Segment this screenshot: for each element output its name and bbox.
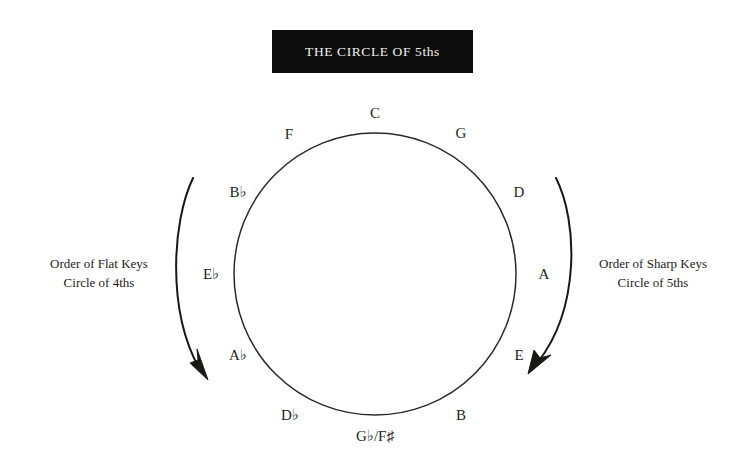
note-g: G [456,126,467,141]
note-gb-fs: G♭/F♯ [356,429,394,444]
note-a: A [539,267,550,282]
flat-keys-caption-line2: Circle of 4ths [50,274,148,293]
flat-keys-caption: Order of Flat Keys Circle of 4ths [50,255,148,293]
main-circle [234,133,516,415]
flat-keys-caption-line1: Order of Flat Keys [50,255,148,274]
sharp-direction-arrow [528,178,571,374]
note-eb: E♭ [203,267,219,282]
sharp-arrow-head [528,350,551,374]
note-b: B [456,408,466,423]
circle-diagram [0,0,742,463]
note-d: D [514,185,525,200]
note-f: F [285,127,293,142]
note-c: C [370,106,380,121]
sharp-keys-caption: Order of Sharp Keys Circle of 5ths [599,255,707,293]
note-e: E [514,348,523,363]
circle-of-fifths-page: THE CIRCLE OF 5ths C G D A E B G♭/F♯ D♭ … [0,0,742,463]
note-ab: A♭ [229,348,247,363]
note-bb: B♭ [229,185,246,200]
sharp-keys-caption-line1: Order of Sharp Keys [599,255,707,274]
sharp-keys-caption-line2: Circle of 5ths [599,274,707,293]
flat-arrow-shaft [176,178,199,368]
note-db: D♭ [281,408,299,423]
